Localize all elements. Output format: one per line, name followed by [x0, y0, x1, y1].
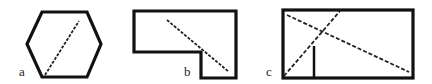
dashed-diagonal: [167, 20, 229, 72]
dashed-diagonal-steep: [284, 11, 340, 76]
figure-c: [283, 10, 413, 78]
dashed-diagonal: [45, 21, 79, 75]
dashed-diagonal-long: [287, 15, 409, 72]
label-a: a: [19, 64, 25, 80]
hexagon-shape: [27, 12, 101, 77]
figure-a: [27, 12, 101, 77]
figure-diagram: [0, 0, 432, 84]
label-b: b: [184, 64, 191, 80]
label-c: c: [266, 64, 272, 80]
